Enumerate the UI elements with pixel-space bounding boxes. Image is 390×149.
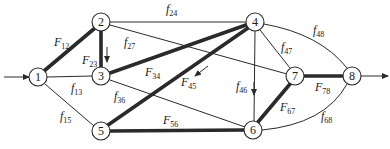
flow-network-diagram: 1 2 3 4 5 6 7 8 F12 F23 f24 f27 f13 f15 …	[0, 0, 390, 149]
label-F45: F45	[180, 75, 196, 91]
label-F34: F34	[144, 65, 160, 81]
label-F56: F56	[162, 113, 178, 129]
label-f47: f47	[281, 40, 292, 56]
edge-5-6	[110, 130, 244, 131]
node-4: 4	[246, 13, 264, 31]
node-2: 2	[92, 13, 110, 31]
label-f48: f48	[313, 23, 324, 39]
label-F12: F12	[53, 35, 69, 51]
node-label: 4	[252, 15, 258, 29]
label-f24: f24	[166, 2, 177, 18]
node-label: 1	[35, 70, 41, 84]
node-7: 7	[286, 67, 304, 85]
edge-4-8	[264, 24, 347, 68]
node-8: 8	[343, 67, 361, 85]
edge-1-3	[47, 76, 92, 77]
node-6: 6	[244, 121, 262, 139]
label-F67: F67	[279, 100, 295, 116]
edge-6-8	[262, 84, 347, 130]
edge-2-7	[110, 25, 287, 74]
node-5: 5	[92, 122, 110, 140]
node-label: 2	[98, 15, 104, 29]
arrow-down-left-f45-icon	[195, 66, 208, 76]
edge-4-6	[254, 31, 255, 121]
label-f46: f46	[236, 79, 247, 95]
node-1: 1	[29, 68, 47, 86]
label-f36: f36	[114, 89, 125, 105]
node-label: 3	[98, 69, 104, 83]
node-3: 3	[92, 67, 110, 85]
node-label: 5	[98, 124, 104, 138]
label-f27: f27	[124, 35, 135, 51]
label-F23: F23	[81, 53, 97, 69]
node-label: 6	[250, 123, 256, 137]
label-f13: f13	[71, 81, 82, 97]
node-label: 7	[292, 69, 298, 83]
label-f15: f15	[60, 109, 71, 125]
node-label: 8	[349, 69, 355, 83]
label-F78: F78	[314, 80, 330, 96]
label-f68: f68	[321, 109, 332, 125]
